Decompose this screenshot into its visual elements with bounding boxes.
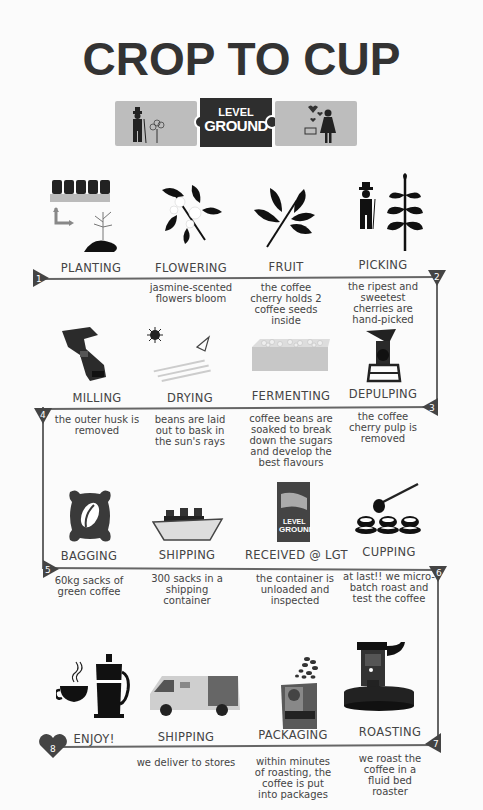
level-ground-bag-icon: LEVEL GROUND [277, 482, 311, 542]
logo-line-2: GROUND [200, 118, 272, 133]
fluid-bed-roaster-icon [343, 640, 415, 715]
step-label: FERMENTING [241, 389, 341, 403]
step-label: FRUIT [236, 260, 336, 274]
step-packaging: PACKAGING within minutes of roasting, th… [243, 728, 343, 800]
svg-text:4: 4 [40, 410, 46, 420]
step-label: CUPPING [339, 545, 439, 559]
step-cupping: CUPPING at last!! we micro-batch roast a… [339, 545, 439, 604]
step-fruit: FRUIT the coffee cherry holds 2 coffee s… [236, 260, 336, 326]
step-drying: DRYING beans are laid out to bask in the… [140, 391, 240, 447]
step-description: coffee beans are soaked to break down th… [241, 413, 341, 468]
step-description: within minutes of roasting, the coffee i… [243, 756, 343, 800]
step-label: SHIPPING [137, 548, 237, 562]
sun-drying-icon [145, 325, 220, 385]
fermenting-tank-icon [250, 337, 332, 377]
farmer-panel [115, 101, 197, 146]
step-description: 300 sacks in a shipping container [137, 573, 237, 606]
step-description: jasmine-scented flowers bloom [141, 282, 241, 304]
step-depulping: DEPULPING the coffee cherry pulp is remo… [333, 387, 433, 444]
step-label: ROASTING [340, 725, 440, 739]
step-label: PLANTING [41, 261, 141, 275]
cargo-ship-icon [152, 502, 224, 544]
step-description: the outer husk is removed [47, 414, 147, 436]
page-title: CROP TO CUP [0, 32, 483, 86]
step-description: the coffee cherry holds 2 coffee seeds i… [236, 282, 336, 326]
step-roasting: ROASTING we roast the coffee in a fluid … [340, 725, 440, 797]
step-label: MILLING [47, 391, 147, 405]
svg-text:1: 1 [36, 274, 42, 284]
step-label: FLOWERING [141, 261, 241, 275]
step-description: the container is unloaded and inspected [245, 573, 345, 606]
timeline-connector-2-3 [436, 277, 438, 407]
seedling-tray-icon [48, 172, 118, 257]
farmer-with-tree-icon [115, 101, 197, 146]
step-bagging: BAGGING 60kg sacks of green coffee [39, 549, 139, 597]
step-shipping-delivery: SHIPPING we deliver to stores [136, 730, 236, 768]
step-enjoy: ENJOY! [44, 732, 144, 746]
svg-text:2: 2 [434, 272, 440, 282]
step-description: at last!! we micro-batch roast and test … [339, 571, 439, 604]
french-press-cup-icon [56, 652, 131, 722]
farmer-with-plant-icon [355, 173, 435, 255]
step-label: RECEIVED @ LGT [245, 548, 345, 562]
step-description: beans are laid out to bask in the sun's … [140, 414, 240, 447]
level-ground-wordmark: LEVEL GROUND [200, 98, 272, 147]
step-fermenting: FERMENTING coffee beans are soaked to br… [241, 389, 341, 468]
delivery-van-icon [148, 672, 243, 717]
coffee-package-icon [277, 655, 327, 730]
step-shipping-sea: SHIPPING 300 sacks in a shipping contain… [137, 548, 237, 606]
step-milling: MILLING the outer husk is removed [47, 391, 147, 436]
timeline-connector-4-5 [42, 407, 44, 569]
step-planting: PLANTING [41, 261, 141, 275]
level-ground-logo-banner: LEVEL GROUND [115, 98, 357, 147]
step-label: PACKAGING [243, 728, 343, 742]
step-description: 60kg sacks of green coffee [39, 575, 139, 597]
step-label: DEPULPING [333, 387, 433, 401]
step-description: the coffee cherry pulp is removed [333, 411, 433, 444]
step-picking: PICKING the ripest and sweetest cherries… [333, 258, 433, 325]
flower-branch-icon [157, 180, 227, 245]
milling-machine-icon [60, 325, 115, 385]
svg-text:GROUND: GROUND [279, 525, 311, 534]
woman-with-coffee-icon [275, 101, 357, 146]
step-label: BAGGING [39, 549, 139, 563]
step-label: ENJOY! [44, 732, 144, 746]
step-label: SHIPPING [136, 730, 236, 744]
step-received-at-lgt: RECEIVED @ LGT the container is unloaded… [245, 548, 345, 606]
step-description: the ripest and sweetest cherries are han… [333, 281, 433, 325]
svg-text:LEVEL: LEVEL [283, 518, 306, 525]
coffee-branch-icon [252, 185, 317, 250]
coffee-sack-icon [66, 488, 114, 543]
cupping-spoon-icon [353, 482, 425, 537]
step-label: DRYING [140, 391, 240, 405]
depulper-machine-icon [362, 325, 407, 385]
step-flowering: FLOWERING jasmine-scented flowers bloom [141, 261, 241, 304]
consumer-panel [275, 101, 357, 146]
step-description: we roast the coffee in a fluid bed roast… [340, 753, 440, 797]
step-description: we deliver to stores [126, 757, 246, 768]
step-label: PICKING [333, 258, 433, 272]
